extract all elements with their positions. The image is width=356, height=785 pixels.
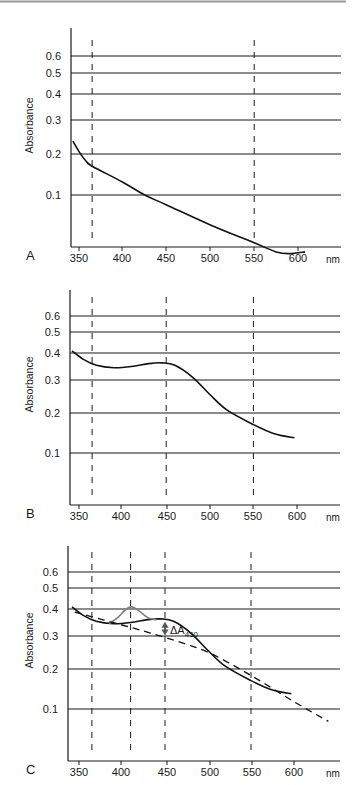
y-tick-label: 0.6: [43, 566, 58, 578]
x-tick-label: 400: [112, 766, 130, 778]
x-tick-label: 450: [157, 252, 175, 264]
y-tick-label: 0.5: [43, 582, 58, 594]
y-tick-label: 0.2: [46, 148, 61, 160]
y-axis-label: Absorbance: [23, 612, 35, 668]
x-tick-label: 350: [70, 252, 88, 264]
y-tick-label: 0.3: [46, 114, 61, 126]
x-tick-label: 500: [201, 766, 219, 778]
x-tick-label: 500: [201, 510, 219, 522]
x-tick-label: 600: [285, 766, 303, 778]
arrow-up-icon: [162, 622, 169, 628]
panel-letter: C: [26, 762, 35, 777]
x-tick-label: 450: [158, 510, 176, 522]
panel-a: 0.10.20.30.40.50.6350400450500550600nmAA…: [23, 28, 341, 265]
y-axis-label: Absorbance: [23, 356, 35, 412]
delta-a-label: ΔA450: [170, 624, 199, 639]
y-tick-label: 0.1: [43, 703, 58, 715]
y-tick-label: 0.2: [43, 663, 58, 675]
delta-a450-annotation: ΔA450: [162, 622, 199, 640]
y-tick-label: 0.5: [46, 67, 61, 79]
arrow-down-icon: [162, 629, 169, 635]
y-tick-label: 0.1: [45, 447, 60, 459]
spectrum-curve: [73, 141, 305, 253]
y-tick-label: 0.1: [46, 189, 61, 201]
x-tick-label: 550: [245, 252, 263, 264]
spectrum-curve: [72, 351, 294, 438]
x-tick-label: 550: [244, 510, 262, 522]
x-tick-label: 350: [70, 766, 88, 778]
x-tick-label: 400: [112, 510, 130, 522]
y-tick-label: 0.6: [45, 310, 60, 322]
x-tick-label: 500: [201, 252, 219, 264]
panel-b: 0.10.20.30.40.50.6350400450500550600nmBA…: [23, 290, 340, 523]
x-tick-label: 600: [288, 510, 306, 522]
y-tick-label: 0.6: [46, 50, 61, 62]
y-tick-label: 0.2: [45, 407, 60, 419]
panel-letter: A: [26, 248, 35, 263]
absorbance-spectra-figure: 0.10.20.30.40.50.6350400450500550600nmAA…: [0, 0, 356, 785]
x-unit-label: nm: [326, 254, 340, 265]
baseline-dashed: [75, 612, 329, 721]
y-tick-label: 0.4: [43, 603, 58, 615]
panel-c: 0.10.20.30.40.50.6350400450500550600nmCA…: [23, 546, 340, 779]
x-tick-label: 550: [243, 766, 261, 778]
y-tick-label: 0.4: [46, 88, 61, 100]
x-unit-label: nm: [326, 512, 340, 523]
x-tick-label: 450: [158, 766, 176, 778]
y-axis-label: Absorbance: [23, 97, 35, 153]
x-tick-label: 400: [113, 252, 131, 264]
panel-letter: B: [26, 506, 35, 521]
y-tick-label: 0.4: [45, 347, 60, 359]
spectrum-curve: [72, 607, 291, 694]
y-tick-label: 0.5: [45, 326, 60, 338]
y-tick-label: 0.3: [43, 630, 58, 642]
x-unit-label: nm: [326, 768, 340, 779]
x-tick-label: 350: [70, 510, 88, 522]
y-tick-label: 0.3: [45, 374, 60, 386]
